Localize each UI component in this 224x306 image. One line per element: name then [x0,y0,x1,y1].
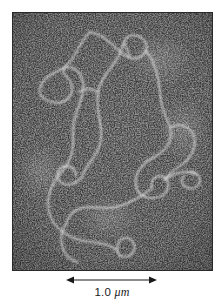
micrograph-figure: 1.0 μm [0,0,224,306]
arrowhead-left-icon [66,277,74,284]
scale-bar-unit: μm [114,285,129,299]
scale-bar-label: 1.0 μm [0,285,224,299]
scale-bar-value: 1.0 [94,286,111,298]
micrograph-image [12,12,213,271]
micrograph-canvas [12,12,213,271]
micrograph-vignette [12,12,213,271]
scale-bar: 1.0 μm [0,272,224,306]
arrowhead-right-icon [149,277,157,284]
